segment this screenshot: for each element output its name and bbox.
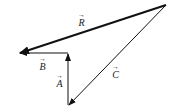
label-r: → R [78, 13, 85, 28]
label-b: → B [39, 57, 46, 72]
vector-diagram [0, 0, 179, 111]
vector-r [20, 5, 166, 53]
label-c: → C [112, 65, 119, 80]
label-a: → A [56, 74, 63, 89]
